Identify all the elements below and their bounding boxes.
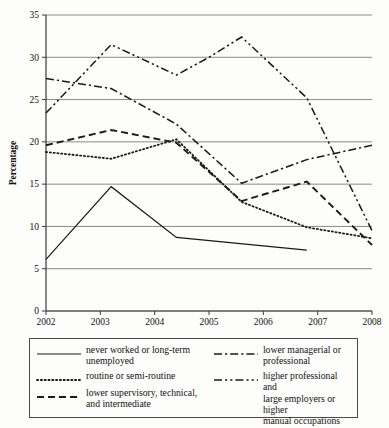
xtick-label-2008: 2008 [363, 317, 382, 327]
legend-swatch [213, 372, 259, 384]
ytick-label-0: 0 [34, 306, 39, 316]
line-chart-svg: 0510152025303520022003200420052006200720… [0, 0, 389, 332]
legend-item-label: higher professional and large employers … [263, 370, 353, 427]
ytick-label-15: 15 [30, 179, 40, 189]
xtick-label-2002: 2002 [37, 317, 56, 327]
legend-swatch-dash-dot-dot [213, 374, 259, 386]
legend-item-label: lower managerial or professional [263, 344, 341, 367]
legend-item-label: never worked or long-term unemployed [86, 344, 190, 367]
legend-swatch [213, 346, 259, 358]
ytick-label-10: 10 [30, 222, 40, 232]
legend-item[interactable]: lower managerial or professional [213, 344, 353, 367]
legend-swatch-dash-dot [213, 348, 259, 360]
xtick-label-2006: 2006 [254, 317, 273, 327]
xtick-label-2005: 2005 [200, 317, 219, 327]
legend-swatch [36, 372, 82, 384]
ytick-label-30: 30 [30, 53, 40, 63]
legend-swatch-dashed [36, 391, 82, 403]
legend-swatch-dotted [36, 374, 82, 386]
series-line-0 [46, 187, 307, 260]
legend-item[interactable]: higher professional and large employers … [213, 370, 353, 427]
xtick-label-2007: 2007 [308, 317, 327, 327]
legend-item[interactable]: never worked or long-term unemployed [36, 344, 213, 367]
legend-column-left: never worked or long-term unemployedrout… [36, 344, 213, 428]
ytick-label-5: 5 [34, 264, 39, 274]
legend-item-label: routine or semi-routine [86, 370, 175, 381]
series-line-2 [46, 130, 372, 245]
legend-item[interactable]: routine or semi-routine [36, 370, 213, 384]
y-axis-title: Percentage [8, 141, 18, 186]
ytick-label-35: 35 [30, 10, 40, 20]
legend-swatch [36, 346, 82, 358]
chart-figure: 0510152025303520022003200420052006200720… [0, 0, 389, 428]
legend-item[interactable]: lower supervisory, technical, and interm… [36, 387, 213, 410]
xtick-label-2003: 2003 [91, 317, 110, 327]
legend-swatch-solid [36, 348, 82, 360]
legend-column-right: lower managerial or professionalhigher p… [213, 344, 353, 428]
ytick-label-25: 25 [30, 95, 40, 105]
legend-swatch [36, 389, 82, 401]
ytick-label-20: 20 [30, 137, 40, 147]
plot-area: 0510152025303520022003200420052006200720… [0, 0, 389, 332]
legend-item-label: lower supervisory, technical, and interm… [86, 387, 197, 410]
chart-legend: never worked or long-term unemployedrout… [29, 338, 358, 418]
xtick-label-2004: 2004 [145, 317, 164, 327]
